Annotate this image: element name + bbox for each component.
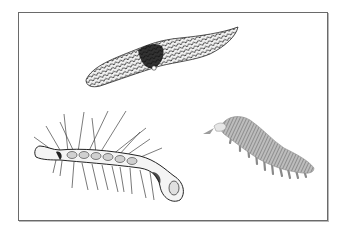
velvet-worm-creature [203, 117, 314, 178]
spiny-worm-creature [34, 111, 183, 201]
illustration-artwork [0, 0, 345, 235]
scaly-slug-creature [86, 27, 238, 87]
